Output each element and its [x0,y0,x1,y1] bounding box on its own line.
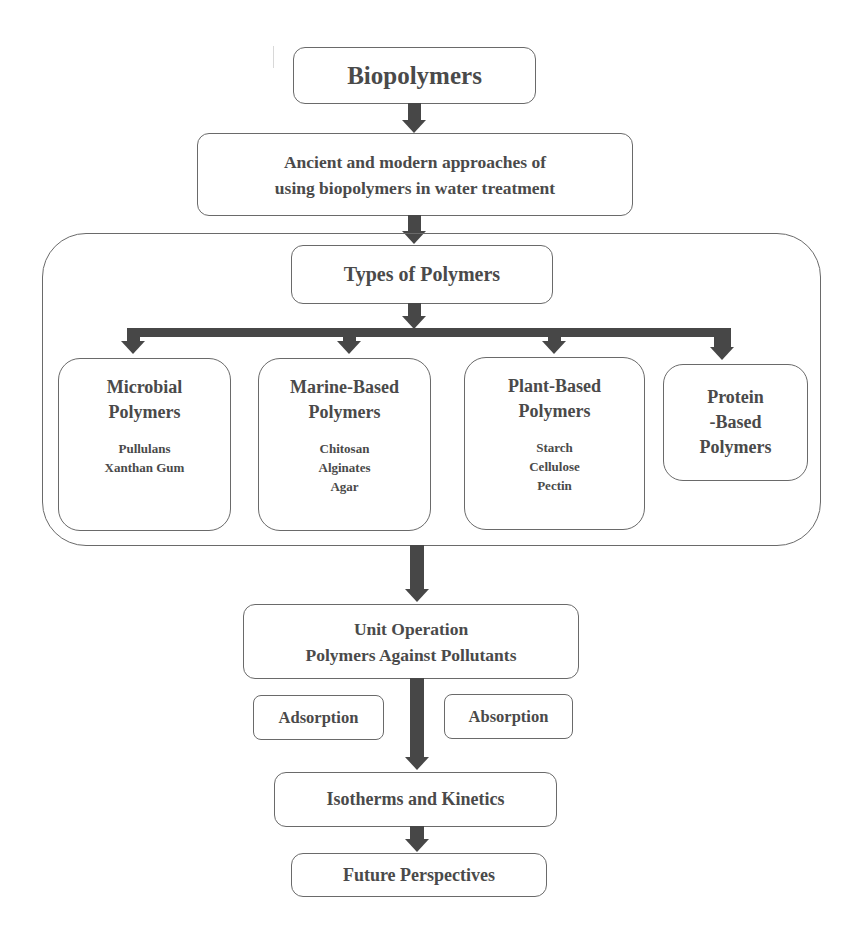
arrow-shaft [410,826,424,840]
example-chitosan: Chitosan [319,439,371,458]
biopolymers-box: Biopolymers [293,47,536,104]
approaches-line-2: using biopolymers in water treatment [275,175,555,201]
arrow-down-icon [402,120,426,133]
plant-examples: Starch Cellulose Pectin [529,438,580,495]
unit-operation-line-2: Polymers Against Pollutants [306,642,517,668]
protein-title-1: Protein [707,385,764,410]
isotherms-kinetics-box: Isotherms and Kinetics [274,772,557,827]
example-pectin: Pectin [529,476,580,495]
types-of-polymers-box: Types of Polymers [291,245,553,304]
arrow-down-icon [542,341,566,354]
isotherms-label: Isotherms and Kinetics [326,787,504,812]
scan-artifact [273,46,274,68]
example-pullulans: Pullulans [105,439,185,458]
arrow-down-icon [405,589,429,602]
unit-operation-line-1: Unit Operation [354,616,468,642]
microbial-title-2: Polymers [109,400,181,425]
marine-based-polymers-box: Marine-Based Polymers Chitosan Alginates… [258,358,431,531]
protein-based-polymers-box: Protein -Based Polymers [663,364,808,481]
microbial-polymers-box: Microbial Polymers Pullulans Xanthan Gum [58,358,231,531]
example-alginates: Alginates [319,458,371,477]
future-label: Future Perspectives [343,863,495,888]
example-starch: Starch [529,438,580,457]
arrow-shaft [408,103,421,121]
unit-operation-box: Unit Operation Polymers Against Pollutan… [243,604,579,679]
branch-bar [127,328,731,337]
arrow-shaft [410,678,424,758]
marine-examples: Chitosan Alginates Agar [319,439,371,496]
plant-based-polymers-box: Plant-Based Polymers Starch Cellulose Pe… [464,357,645,530]
arrow-down-icon [405,839,429,852]
adsorption-label: Adsorption [279,705,359,730]
plant-title-1: Plant-Based [508,374,601,399]
arrow-down-icon [121,341,145,354]
adsorption-box: Adsorption [253,695,384,740]
absorption-box: Absorption [444,694,573,739]
absorption-label: Absorption [469,704,549,729]
protein-title-3: Polymers [700,435,772,460]
types-label: Types of Polymers [344,262,500,287]
arrow-down-icon [405,757,429,770]
arrow-down-icon [337,341,361,354]
arrow-down-icon [710,347,734,360]
example-cellulose: Cellulose [529,457,580,476]
example-xanthan-gum: Xanthan Gum [105,458,185,477]
biopolymers-label: Biopolymers [347,62,482,90]
example-agar: Agar [319,477,371,496]
approaches-box: Ancient and modern approaches of using b… [197,133,633,216]
plant-title-2: Polymers [519,399,591,424]
arrow-shaft [410,545,424,590]
microbial-title-1: Microbial [107,375,183,400]
approaches-line-1: Ancient and modern approaches of [284,149,546,175]
microbial-examples: Pullulans Xanthan Gum [105,439,185,477]
marine-title-1: Marine-Based [290,375,399,400]
protein-title-2: -Based [709,410,761,435]
marine-title-2: Polymers [309,400,381,425]
future-perspectives-box: Future Perspectives [291,853,547,897]
